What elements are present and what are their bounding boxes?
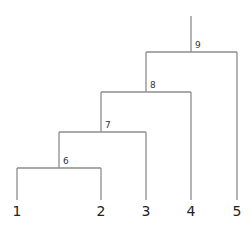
leaf-1-label: 1	[13, 203, 22, 219]
node-6: 6	[17, 132, 101, 168]
node-9-label: 9	[195, 40, 201, 50]
node-7-label: 7	[105, 120, 111, 130]
leaf-5-label: 5	[233, 203, 242, 219]
node-6-label: 6	[63, 156, 69, 166]
leaf-3-label: 3	[142, 203, 151, 219]
node-8: 8	[101, 52, 191, 92]
leaf-4-label: 4	[187, 203, 196, 219]
node-7: 7	[59, 92, 146, 132]
node-8-label: 8	[150, 80, 156, 90]
dendrogram: 9 8 7 6 1 2 3 4 5	[0, 0, 252, 227]
leaf-2-label: 2	[97, 203, 106, 219]
